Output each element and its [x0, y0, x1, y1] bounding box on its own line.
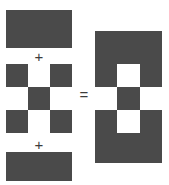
- checker-cell-r1c3: [50, 64, 72, 87]
- composite-result: [95, 31, 162, 163]
- result-cell-r1c2: [117, 64, 140, 87]
- result-cell-r2c3: [140, 87, 162, 110]
- checker-cell-r1c1: [6, 64, 28, 87]
- plus-operator-second: +: [30, 137, 48, 152]
- bottom-solid-rectangle: [6, 152, 72, 181]
- result-checkerboard-3x3: [95, 64, 162, 133]
- checker-cell-r1c2: [28, 64, 50, 87]
- result-top-band: [95, 31, 162, 64]
- checker-cell-r3c2: [28, 110, 50, 133]
- result-cell-r2c1: [95, 87, 117, 110]
- checker-cell-r3c3: [50, 110, 72, 133]
- result-cell-r1c3: [140, 64, 162, 87]
- result-cell-r3c2: [117, 110, 140, 133]
- result-bottom-band: [95, 133, 162, 163]
- result-cell-r3c1: [95, 110, 117, 133]
- plus-operator-first: +: [30, 49, 48, 64]
- result-cell-r3c3: [140, 110, 162, 133]
- checkerboard-3x3: [6, 64, 72, 133]
- checker-cell-r2c1: [6, 87, 28, 110]
- result-cell-r1c1: [95, 64, 117, 87]
- top-solid-rectangle: [6, 10, 72, 48]
- equals-operator: =: [75, 87, 93, 102]
- checker-cell-r3c1: [6, 110, 28, 133]
- result-cell-r2c2: [117, 87, 140, 110]
- checker-cell-r2c2: [28, 87, 50, 110]
- diagram-canvas: + + =: [0, 0, 169, 185]
- checker-cell-r2c3: [50, 87, 72, 110]
